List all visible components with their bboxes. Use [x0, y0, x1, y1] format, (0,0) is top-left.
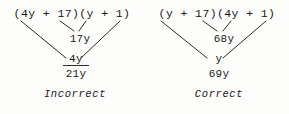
inner-product-correct: 68y [152, 33, 289, 45]
inner-product-incorrect: 17y [8, 33, 152, 45]
sum-total-incorrect: 21y [4, 68, 148, 80]
expression-incorrect: (4y + 17)(y + 1) [0, 7, 144, 20]
expression-correct: (y + 17)(4y + 1) [145, 7, 289, 20]
verdict-label-correct: Correct [147, 88, 289, 100]
outer-product-incorrect: 4y [4, 53, 148, 65]
verdict-label-incorrect: Incorrect [3, 88, 147, 100]
connector-inner-right [223, 21, 231, 31]
factoring-check-figure: (4y + 17)(y + 1) 17y 4y 21y Incorrect (y… [0, 0, 289, 114]
sum-total-correct: 69y [147, 68, 289, 80]
connector-inner-right [79, 21, 86, 31]
panel-correct: (y + 17)(4y + 1) 68y y 69y Correct [145, 0, 289, 114]
panel-incorrect: (4y + 17)(y + 1) 17y 4y 21y Incorrect [0, 0, 144, 114]
outer-product-correct: y [147, 53, 289, 65]
connector-inner-left [60, 21, 74, 31]
connector-inner-left [203, 21, 217, 31]
sum-rule-incorrect [63, 65, 89, 66]
